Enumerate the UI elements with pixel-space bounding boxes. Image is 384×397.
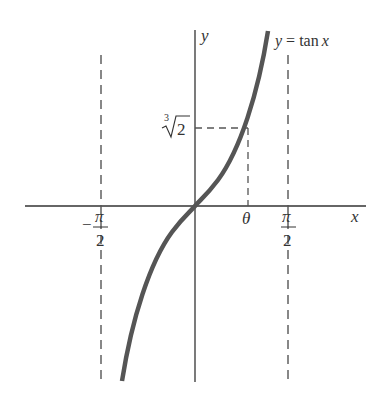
tangent-graph: y x y = tanx − π 2 θ π 2 3 2 xyxy=(0,0,384,397)
function-label-eq: = xyxy=(282,32,299,49)
radical-index: 3 xyxy=(164,112,169,123)
y-axis-label: y xyxy=(199,26,209,45)
numerator: π xyxy=(282,207,291,226)
denominator: 2 xyxy=(283,231,292,250)
numerator: π xyxy=(95,207,104,226)
y-mark-cube-root-2: 3 2 xyxy=(162,112,190,139)
x-axis-label: x xyxy=(350,207,359,226)
function-label-var: x xyxy=(321,32,329,49)
minus-sign: − xyxy=(82,215,92,234)
tick-label-theta: θ xyxy=(242,209,250,228)
radicand: 2 xyxy=(177,120,186,139)
denominator: 2 xyxy=(96,231,105,250)
tick-label-neg-pi-over-2: − π 2 xyxy=(82,207,108,250)
function-label: y = tanx xyxy=(273,32,329,50)
function-label-fn: tan xyxy=(299,32,319,49)
